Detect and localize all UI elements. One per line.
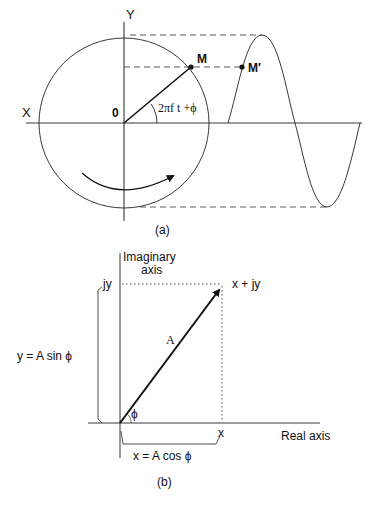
- jy-label: jy: [102, 277, 112, 291]
- point-m: [188, 64, 193, 69]
- x-formula: x = A cos ϕ: [133, 449, 192, 463]
- vector-label: A: [166, 333, 175, 347]
- y-brace: [98, 287, 102, 423]
- point-m-label: M: [197, 52, 207, 66]
- origin-label: 0: [112, 106, 119, 120]
- imaginary-axis-label-1: Imaginary: [123, 250, 176, 264]
- imaginary-axis-label-2: axis: [141, 263, 162, 277]
- caption-a: (a): [155, 223, 170, 237]
- vector-a: [120, 290, 219, 423]
- figure-b: Imaginary axis jy x + jy A ϕ y = A sin ϕ…: [17, 250, 330, 489]
- rotation-arrow-icon: [82, 173, 173, 190]
- caption-b: (b): [157, 475, 172, 489]
- phasor-diagram: Y X 0 M M′ 2πf t +ϕ (a) Imaginary axis j…: [0, 0, 374, 505]
- x-axis-label: X: [22, 105, 31, 120]
- point-m-prime: [239, 64, 244, 69]
- point-m-prime-label: M′: [248, 61, 261, 75]
- y-formula: y = A sin ϕ: [17, 349, 72, 363]
- angle-arc: [151, 104, 157, 123]
- angle-label: 2πf t +ϕ: [158, 101, 196, 115]
- x-value-label: x: [218, 426, 224, 440]
- x-brace: [121, 431, 220, 444]
- point-label: x + jy: [232, 277, 260, 291]
- y-axis-label: Y: [126, 7, 135, 22]
- phi-label: ϕ: [131, 407, 138, 421]
- real-axis-label: Real axis: [281, 429, 330, 443]
- figure-a: Y X 0 M M′ 2πf t +ϕ (a): [22, 7, 362, 237]
